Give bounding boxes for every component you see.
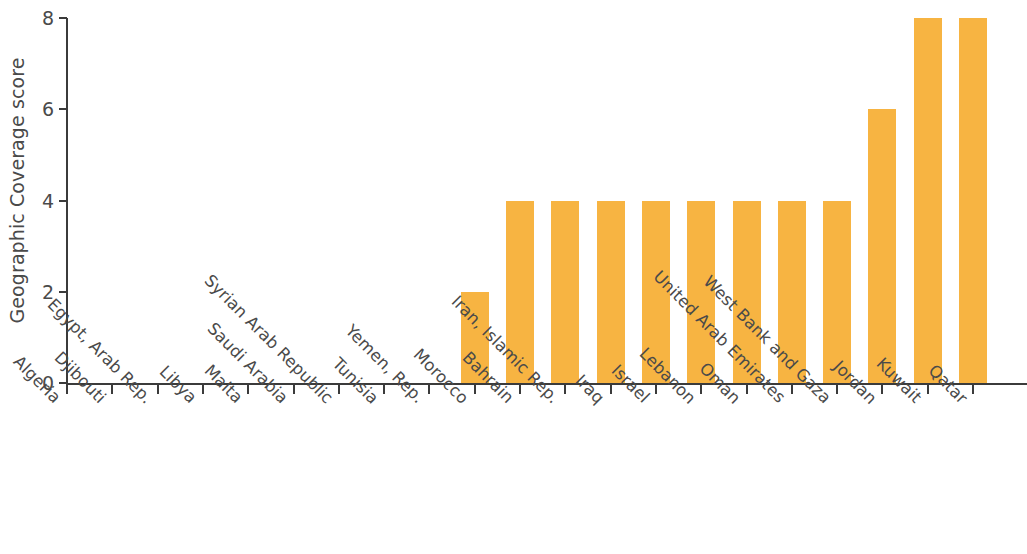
x-axis-tick: [791, 385, 793, 394]
x-axis-tick: [655, 385, 657, 394]
y-axis-tick: [59, 17, 67, 19]
y-axis-tick-label: 4: [14, 190, 54, 212]
bar: [959, 18, 987, 383]
x-axis-tick: [474, 385, 476, 394]
x-axis-tick: [881, 385, 883, 394]
bar: [551, 201, 579, 384]
x-axis-tick: [836, 385, 838, 394]
bar: [868, 109, 896, 383]
bar: [823, 201, 851, 384]
x-axis-tick: [927, 385, 929, 394]
x-axis-tick: [293, 385, 295, 394]
x-axis-tick: [383, 385, 385, 394]
y-axis-tick: [59, 200, 67, 202]
bar: [914, 18, 942, 383]
x-axis-tick: [746, 385, 748, 394]
x-axis-tick: [700, 385, 702, 394]
y-axis-tick-label: 2: [14, 281, 54, 303]
x-axis-tick: [564, 385, 566, 394]
x-axis-tick: [428, 385, 430, 394]
x-axis-tick: [247, 385, 249, 394]
y-axis-tick-label: 6: [14, 98, 54, 120]
x-axis-tick: [610, 385, 612, 394]
y-axis-tick: [59, 108, 67, 110]
x-axis-tick: [66, 385, 68, 394]
x-axis-tick: [972, 385, 974, 394]
y-axis-tick: [59, 291, 67, 293]
x-axis-tick: [338, 385, 340, 394]
bar: [597, 201, 625, 384]
x-axis-tick: [157, 385, 159, 394]
x-axis-tick: [519, 385, 521, 394]
y-axis-tick: [59, 382, 67, 384]
x-axis-tick: [202, 385, 204, 394]
x-axis-tick: [111, 385, 113, 394]
bar-chart-figure: Geographic Coverage score 02468 AlgeriaD…: [0, 0, 1027, 554]
y-axis-tick-label: 8: [14, 7, 54, 29]
